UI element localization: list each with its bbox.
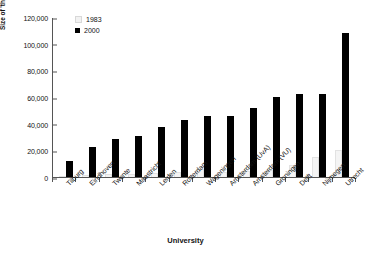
bar-chart: Size of 'third money stream' (€M) 020,00… [0,0,371,253]
legend-item-1983: 1983 [75,14,102,25]
bar-2000 [158,127,165,177]
y-axis-tick-label: 80,000 [27,68,53,75]
bar-group [215,18,238,177]
bar-1983 [128,174,135,177]
legend-label-1983: 1983 [86,14,102,25]
bar-group [307,18,330,177]
y-axis-tick-label: 40,000 [27,121,53,128]
light-square-icon [75,16,82,23]
y-axis-tick-label: 120,000 [23,15,53,22]
y-axis-title: Size of 'third money stream' (€M) [0,0,6,30]
bar-1983 [59,176,66,177]
bar-2000 [342,33,349,177]
bar-group [147,18,170,177]
bar-1983 [105,174,112,177]
bar-2000 [319,94,326,177]
bar-1983 [82,175,89,177]
bar-group [55,18,78,177]
bar-group [330,18,353,177]
bar-2000 [135,136,142,177]
bar-group [170,18,193,177]
legend-label-2000: 2000 [84,25,100,36]
bar-1983 [312,157,319,177]
x-axis-labels: TilburgEindhovenTwenteMaastrichtLeidenRo… [0,180,371,236]
legend-item-2000: 2000 [75,25,102,36]
bar-group [124,18,147,177]
x-axis-title: University [0,236,371,245]
bar-series-container [53,18,355,177]
bar-2000 [112,139,119,177]
bar-group [78,18,101,177]
black-square-icon [75,28,80,33]
bar-2000 [89,147,96,177]
bar-group [101,18,124,177]
y-axis-tick-label: 100,000 [23,41,53,48]
bar-2000 [204,116,211,177]
y-axis-tick-label: 20,000 [27,148,53,155]
chart-legend: 1983 2000 [75,14,102,36]
plot-area: 020,00040,00060,00080,000100,000120,000 [52,18,355,178]
y-axis-tick-label: 60,000 [27,95,53,102]
bar-group [193,18,216,177]
bar-2000 [181,120,188,177]
